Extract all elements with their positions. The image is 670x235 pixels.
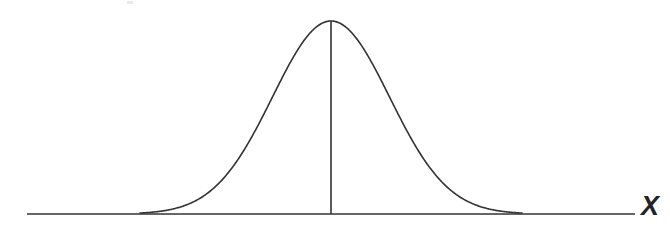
normal-distribution-chart [0, 0, 670, 235]
x-axis-label: X [641, 193, 659, 220]
bell-curve-figure: X [0, 0, 670, 235]
scan-artifact-speck [127, 1, 133, 4]
